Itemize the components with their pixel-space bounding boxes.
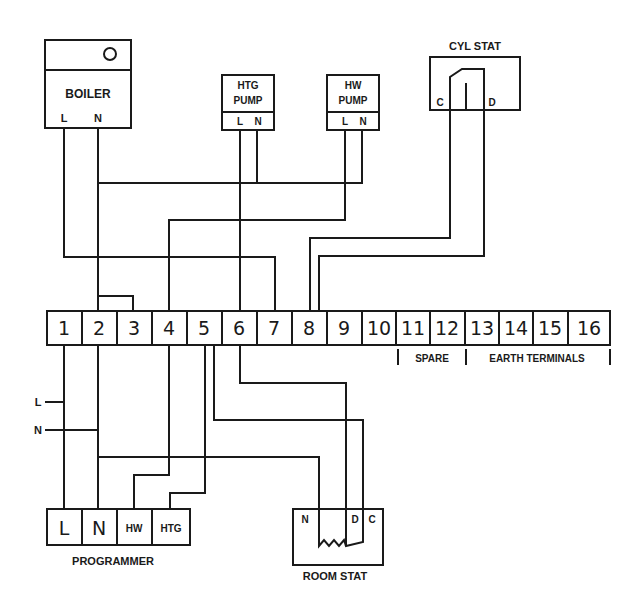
- wire-neutral-bus: [98, 130, 362, 183]
- room-stat-terminal-n: N: [301, 514, 308, 525]
- terminal-6: 6: [233, 317, 245, 339]
- terminal-12: 12: [435, 317, 459, 339]
- terminal-strip: 1 2 3 4 5 6 7 8 9 10 11 12 13 14 15 16 S…: [47, 311, 610, 364]
- room-stat-label: ROOM STAT: [303, 570, 368, 582]
- hw-pump-terminal-l: L: [342, 116, 348, 127]
- wire-term5-prog-htg: [170, 345, 205, 509]
- programmer-terminal-n: N: [92, 517, 106, 539]
- wire-cyl-stat-c: [310, 110, 450, 311]
- htg-pump: HTG PUMP L N: [222, 75, 274, 130]
- supply-neutral-label: N: [34, 424, 42, 436]
- room-stat-terminal-c: C: [368, 514, 375, 525]
- htg-pump-terminal-l: L: [237, 116, 243, 127]
- terminal-11: 11: [401, 317, 425, 339]
- terminal-10: 10: [367, 317, 391, 339]
- wiring-diagram: BOILER L N HTG PUMP L N HW PUMP L N CYL …: [0, 0, 629, 608]
- wire-cyl-stat-d: [319, 110, 484, 311]
- wires: [46, 110, 484, 509]
- hw-pump-terminal-n: N: [359, 116, 366, 127]
- earth-terminals-label: EARTH TERMINALS: [489, 353, 585, 364]
- programmer: L N HW HTG PROGRAMMER: [47, 509, 190, 567]
- boiler: BOILER L N: [45, 40, 131, 128]
- wire-term6-room-stat-d: [240, 345, 346, 509]
- room-stat: N D C ROOM STAT: [293, 509, 383, 582]
- terminal-2: 2: [93, 317, 105, 339]
- programmer-terminal-l: L: [59, 517, 70, 539]
- terminal-16: 16: [577, 317, 601, 339]
- terminal-9: 9: [338, 317, 350, 339]
- programmer-terminal-htg: HTG: [160, 523, 181, 534]
- hw-pump: HW PUMP L N: [327, 75, 379, 130]
- terminal-1: 1: [58, 317, 70, 339]
- htg-pump-terminal-n: N: [254, 116, 261, 127]
- room-stat-terminal-d: D: [351, 514, 358, 525]
- boiler-label: BOILER: [65, 87, 111, 101]
- spare-label: SPARE: [415, 353, 449, 364]
- htg-pump-label-2: PUMP: [234, 95, 263, 106]
- terminal-7: 7: [268, 317, 280, 339]
- cyl-stat-terminal-d: D: [488, 97, 495, 108]
- hw-pump-label-2: PUMP: [339, 95, 368, 106]
- hw-pump-label-1: HW: [345, 80, 362, 91]
- wire-term5-room-stat-c: [214, 345, 363, 509]
- programmer-label: PROGRAMMER: [72, 555, 154, 567]
- boiler-box: [45, 40, 131, 128]
- cyl-stat: CYL STAT C D: [430, 40, 520, 110]
- terminal-3: 3: [128, 317, 140, 339]
- cyl-stat-terminal-c: C: [436, 97, 443, 108]
- supply-live-label: L: [35, 396, 42, 408]
- wire-link-2-3: [98, 296, 133, 311]
- boiler-terminal-l: L: [61, 112, 68, 124]
- terminal-14: 14: [504, 317, 528, 339]
- wire-term4-prog-hw: [134, 345, 169, 509]
- terminal-13: 13: [470, 317, 494, 339]
- wire-room-stat-n: [98, 457, 319, 509]
- terminal-15: 15: [538, 317, 562, 339]
- cyl-stat-label: CYL STAT: [449, 40, 501, 52]
- terminal-5: 5: [198, 317, 210, 339]
- htg-pump-label-1: HTG: [237, 80, 258, 91]
- programmer-terminal-hw: HW: [126, 523, 143, 534]
- terminal-4: 4: [163, 317, 175, 339]
- boiler-terminal-n: N: [94, 112, 102, 124]
- terminal-8: 8: [303, 317, 315, 339]
